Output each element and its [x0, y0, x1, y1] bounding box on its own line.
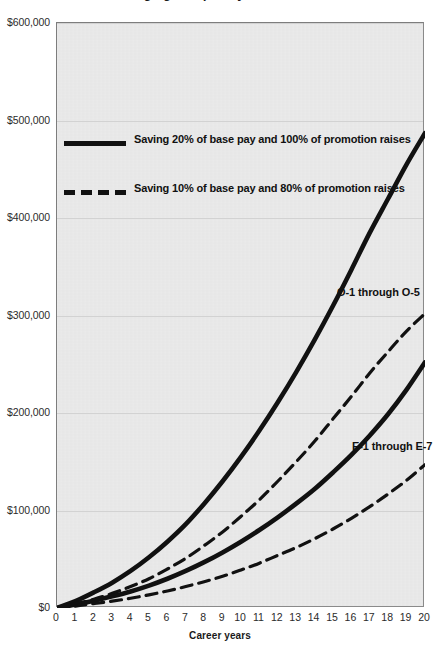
x-axis-tick-label: 7 [182, 611, 188, 623]
chart-page: Savings grow quickly over a career $0$10… [0, 0, 440, 651]
x-axis-tick-label: 17 [363, 611, 375, 623]
y-axis-tick-label: $0 [0, 601, 50, 613]
legend-label-dashed: Saving 10% of base pay and 80% of promot… [134, 182, 405, 194]
y-axis-tick-label: $100,000 [0, 504, 50, 516]
y-axis-tick-label: $500,000 [0, 114, 50, 126]
y-axis-tick-label: $400,000 [0, 211, 50, 223]
y-axis-tick-label: $300,000 [0, 309, 50, 321]
x-axis-tick-label: 18 [381, 611, 393, 623]
x-axis-title: Career years [0, 630, 440, 641]
x-axis-tick-label: 19 [400, 611, 412, 623]
x-axis-tick-label: 2 [90, 611, 96, 623]
x-axis-tick-label: 9 [219, 611, 225, 623]
legend-swatch-dashed-icon [64, 190, 126, 195]
legend-item-dashed: Saving 10% of base pay and 80% of promot… [64, 182, 394, 212]
legend: Saving 20% of base pay and 100% of promo… [64, 133, 394, 212]
x-axis-tick-label: 0 [53, 611, 59, 623]
x-axis-tick-label: 5 [145, 611, 151, 623]
x-axis-tick-label: 14 [308, 611, 320, 623]
legend-item-solid: Saving 20% of base pay and 100% of promo… [64, 133, 394, 163]
legend-label-solid: Saving 20% of base pay and 100% of promo… [134, 133, 411, 145]
x-axis-tick-label: 10 [234, 611, 246, 623]
series-curves [57, 23, 425, 608]
x-axis-tick-label: 12 [271, 611, 283, 623]
x-axis-tick-label: 3 [108, 611, 114, 623]
series-line-4 [57, 465, 425, 608]
chart-title: Savings grow quickly over a career [0, 0, 440, 4]
x-axis-tick-label: 11 [253, 611, 264, 623]
y-axis-tick-label: $200,000 [0, 406, 50, 418]
legend-swatch-solid-icon [64, 141, 126, 146]
x-axis-tick-label: 4 [127, 611, 133, 623]
x-axis-tick-label: 13 [289, 611, 301, 623]
x-axis-tick-label: 6 [163, 611, 169, 623]
plot-area [56, 22, 424, 607]
x-axis-tick-label: 16 [345, 611, 357, 623]
x-axis-tick-label: 20 [418, 611, 430, 623]
x-axis-tick-label: 1 [71, 611, 77, 623]
x-axis-tick-label: 8 [200, 611, 206, 623]
x-axis-tick-label: 15 [326, 611, 338, 623]
series-annotation-officer: O-1 through O-5 [337, 286, 420, 298]
series-annotation-enlisted: E-1 through E-7 [352, 440, 432, 452]
y-axis-tick-label: $600,000 [0, 16, 50, 28]
